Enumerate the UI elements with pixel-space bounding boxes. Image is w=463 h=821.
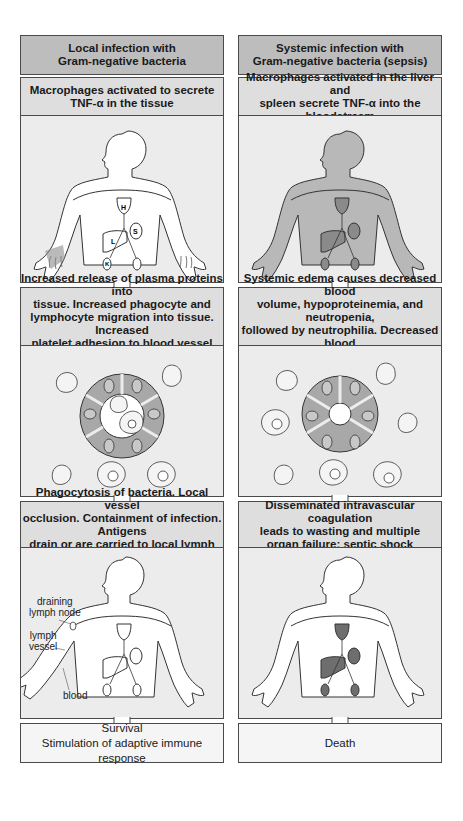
blood-vessel-cross-section-icon bbox=[21, 346, 223, 496]
local-step3-caption: Phagocytosis of bacteria. Local vessel o… bbox=[20, 501, 224, 548]
spleen-label: S bbox=[133, 228, 138, 235]
human-body-organ-failure-icon bbox=[239, 548, 441, 718]
label-line: draining bbox=[29, 596, 81, 607]
human-body-tinted-icon bbox=[239, 116, 441, 282]
survival-outcome: SurvivalStimulation of adaptive immune r… bbox=[20, 723, 224, 763]
label-line: lymph node bbox=[29, 607, 81, 618]
header-line: Systemic infection with bbox=[253, 42, 428, 55]
caption-line: volume, hypoproteinemia, and neutropenia… bbox=[239, 298, 441, 324]
caption-line: occlusion. Containment of infection. Ant… bbox=[21, 512, 223, 538]
kidney-label: K bbox=[105, 261, 110, 267]
local-lymph-illustration: draininglymph node lymphvessel blood bbox=[20, 547, 224, 719]
death-outcome: Death bbox=[238, 723, 442, 763]
caption-line: Disseminated intravascular coagulation bbox=[239, 499, 441, 525]
local-step1-caption: Macrophages activated to secreteTNF-α in… bbox=[20, 77, 224, 116]
blood-label: blood bbox=[63, 690, 87, 701]
label-line: lymph bbox=[29, 630, 57, 641]
systemic-step3-caption: Disseminated intravascular coagulation l… bbox=[238, 501, 442, 548]
header-line: Gram-negative bacteria bbox=[58, 55, 186, 68]
caption-line: tissue. Increased phagocyte and bbox=[21, 298, 223, 311]
outcome-line: Death bbox=[325, 736, 356, 751]
caption-line: Macrophages activated in the liver and bbox=[239, 71, 441, 97]
draining-lymph-node-label: draininglymph node bbox=[29, 596, 81, 618]
caption-line: Systemic edema causes decreased blood bbox=[239, 272, 441, 298]
caption-line: lymphocyte migration into tissue. Increa… bbox=[21, 311, 223, 337]
human-body-organs-icon: H S L K bbox=[21, 116, 223, 282]
systemic-infection-header: Systemic infection withGram-negative bac… bbox=[238, 35, 442, 75]
systemic-body-illustration bbox=[238, 115, 442, 283]
systemic-step2-caption: Systemic edema causes decreased blood vo… bbox=[238, 287, 442, 346]
heart-label: H bbox=[121, 204, 126, 211]
caption-line: leads to wasting and multiple bbox=[239, 525, 441, 538]
collapsed-vessel-icon bbox=[239, 346, 441, 496]
header-line: Gram-negative bacteria (sepsis) bbox=[253, 55, 428, 68]
systemic-organ-failure-illustration bbox=[238, 547, 442, 719]
local-infection-header: Local infection withGram-negative bacter… bbox=[20, 35, 224, 75]
liver-label: L bbox=[111, 238, 116, 245]
local-vessel-illustration bbox=[20, 345, 224, 497]
caption-line: TNF-α in the tissue bbox=[30, 97, 215, 110]
outcome-line: Stimulation of adaptive immune response bbox=[21, 736, 223, 766]
systemic-step1-caption: Macrophages activated in the liver andsp… bbox=[238, 77, 442, 116]
caption-line: Phagocytosis of bacteria. Local vessel bbox=[21, 486, 223, 512]
caption-line: Increased release of plasma proteins int… bbox=[21, 272, 223, 298]
local-step2-caption: Increased release of plasma proteins int… bbox=[20, 287, 224, 346]
caption-line: Macrophages activated to secrete bbox=[30, 84, 215, 97]
label-line: vessel bbox=[29, 641, 57, 652]
local-body-illustration: H S L K bbox=[20, 115, 224, 283]
systemic-vessel-illustration bbox=[238, 345, 442, 497]
outcome-line: Survival bbox=[21, 721, 223, 736]
lymph-vessel-label: lymphvessel bbox=[29, 630, 57, 652]
header-line: Local infection with bbox=[58, 42, 186, 55]
